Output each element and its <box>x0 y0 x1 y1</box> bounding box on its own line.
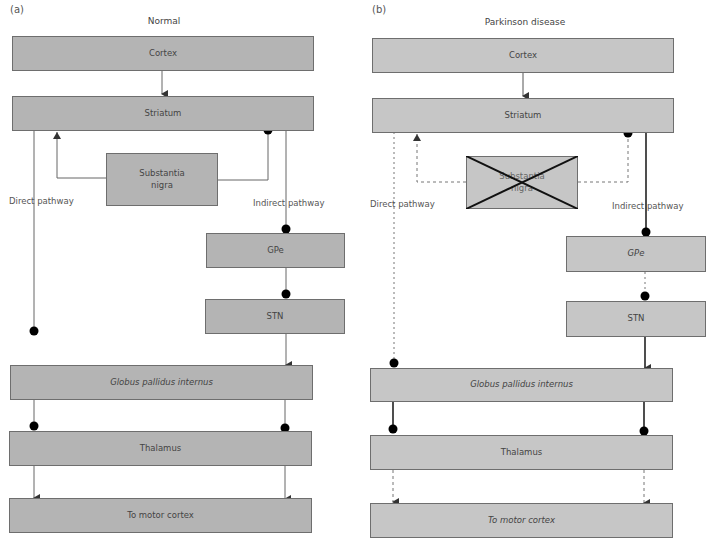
inhibitory-dot-icon <box>390 359 399 368</box>
box-label: GPe <box>628 248 645 259</box>
box-label: Globus pallidus internus <box>470 379 573 390</box>
arrow-up-icon <box>53 132 61 139</box>
box-label: Striatum <box>145 108 182 119</box>
panel-label: (a) <box>10 4 24 15</box>
basal-ganglia-diagram: (a) Normal Cortex Striatum Substantia ni… <box>0 0 714 546</box>
box-label: Cortex <box>149 48 177 59</box>
substantia-nigra-box: Substantia nigra <box>106 153 218 206</box>
panel-title: Normal <box>100 16 228 26</box>
direct-pathway-label: Direct pathway <box>370 199 435 209</box>
cortex-box: Cortex <box>372 38 674 73</box>
stn-box: STN <box>205 299 345 334</box>
gpe-box: GPe <box>206 233 345 268</box>
thalamus-box: Thalamus <box>370 435 673 470</box>
box-label: Striatum <box>505 110 542 121</box>
box-label: To motor cortex <box>127 510 194 521</box>
box-label: GPe <box>267 245 284 256</box>
box-label: Globus pallidus internus <box>110 377 213 388</box>
cortex-box: Cortex <box>12 36 314 71</box>
box-label: To motor cortex <box>488 515 555 526</box>
indirect-pathway-label: Indirect pathway <box>612 201 683 211</box>
box-label: Cortex <box>509 50 537 61</box>
arrow-up-icon <box>413 134 421 141</box>
direct-pathway-label: Direct pathway <box>9 196 74 206</box>
inhibitory-dot-icon <box>30 327 39 336</box>
striatum-box: Striatum <box>372 98 674 133</box>
sn-to-striatum-excitatory-line <box>57 132 106 178</box>
stn-box: STN <box>566 301 706 337</box>
box-label: STN <box>267 311 284 322</box>
box-label: Thalamus <box>140 443 181 454</box>
box-label: Substantia nigra <box>139 168 184 191</box>
inhibitory-dot-icon <box>282 290 291 299</box>
sn-to-striatum-excitatory-dashed-line <box>417 134 466 182</box>
substantia-nigra-box-degenerated: Substantia nigra <box>466 156 578 209</box>
panel-label: (b) <box>372 4 386 15</box>
gpe-box: GPe <box>566 236 706 272</box>
gpi-box: Globus pallidus internus <box>370 368 673 402</box>
sn-to-striatum-inhibitory-dashed-line <box>578 133 628 182</box>
motor-cortex-box: To motor cortex <box>9 498 312 533</box>
gpi-box: Globus pallidus internus <box>10 365 313 400</box>
inhibitory-dot-icon <box>30 422 39 431</box>
inhibitory-dot-icon <box>641 292 650 301</box>
thalamus-box: Thalamus <box>9 431 312 466</box>
inhibitory-dot-icon <box>389 425 398 434</box>
cross-out-icon <box>466 156 578 209</box>
sn-to-striatum-inhibitory-line <box>218 131 268 180</box>
indirect-pathway-label: Indirect pathway <box>253 198 324 208</box>
box-label: STN <box>628 313 645 324</box>
motor-cortex-box: To motor cortex <box>370 503 673 538</box>
panel-title: Parkinson disease <box>440 17 610 27</box>
box-label: Thalamus <box>501 447 542 458</box>
striatum-box: Striatum <box>12 96 314 131</box>
